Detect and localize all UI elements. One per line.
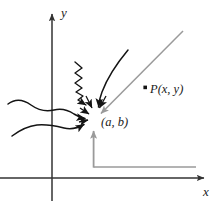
figure-canvas: y x P(x, y) (a, b) (0, 0, 220, 205)
wavy-approach-path-lower (12, 125, 84, 137)
zigzag-approach-path (75, 62, 86, 105)
secant-line-through-p (101, 31, 183, 114)
point-p-marker (143, 86, 147, 90)
x-axis-label: x (202, 184, 209, 199)
point-limit-label: (a, b) (101, 115, 128, 129)
guide-lines-group (94, 31, 196, 168)
y-axis-label: y (59, 5, 67, 20)
converging-arrow-a (86, 96, 92, 108)
coordinate-axes (0, 14, 204, 201)
curve-from-upper-right (99, 50, 129, 107)
limit-diagram-svg: y x P(x, y) (a, b) (0, 0, 220, 205)
converging-arrow-c (80, 108, 89, 114)
converging-arrow-d (79, 120, 88, 122)
point-p-label: P(x, y) (149, 82, 183, 96)
wavy-approach-path-upper (8, 100, 85, 118)
